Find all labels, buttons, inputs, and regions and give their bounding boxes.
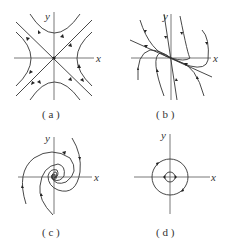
arrow-icon (37, 80, 41, 84)
trajectory (16, 32, 31, 86)
trajectory (171, 30, 208, 67)
panel-c: x y ( c ) (18, 132, 99, 239)
trajectory (30, 14, 80, 33)
arrow-icon (137, 67, 139, 70)
phase-portraits-figure: x y ( a ) x y (0, 0, 229, 248)
trajectory (164, 14, 177, 100)
trajectory (40, 164, 65, 215)
arrow-icon (180, 32, 183, 35)
panel-label: ( c ) (42, 226, 60, 239)
panel-label: ( a ) (42, 108, 60, 121)
panel-a: x y ( a ) (14, 10, 101, 121)
panel-b: x y ( b ) (130, 10, 218, 121)
arrow-icon (164, 36, 167, 39)
trajectory (77, 32, 92, 86)
trajectory (30, 82, 80, 100)
arrow-icon (163, 175, 165, 179)
panel-label: ( d ) (156, 226, 175, 239)
arrow-icon (29, 70, 33, 74)
arrow-icon (26, 37, 30, 41)
equilibrium-point (52, 56, 55, 59)
x-axis-label: x (95, 52, 101, 64)
arrow-icon (80, 78, 84, 82)
arrow-icon (68, 77, 72, 81)
trajectory (156, 53, 171, 96)
arrow-icon (31, 81, 35, 85)
trajectory (171, 16, 190, 60)
arrow-icon (175, 175, 177, 179)
arrow-icon (38, 30, 41, 34)
x-axis-label: x (212, 52, 218, 64)
y-axis-label: y (160, 129, 166, 141)
x-axis-label: x (93, 171, 99, 183)
arrow-icon (175, 78, 178, 81)
panel-label: ( b ) (156, 108, 175, 121)
panel-d: x y ( d ) (134, 129, 216, 239)
trajectory (48, 138, 80, 191)
y-axis-label: y (44, 10, 50, 22)
arrow-icon (60, 34, 64, 38)
y-axis-label: y (44, 132, 50, 144)
x-axis-label: x (210, 171, 216, 183)
